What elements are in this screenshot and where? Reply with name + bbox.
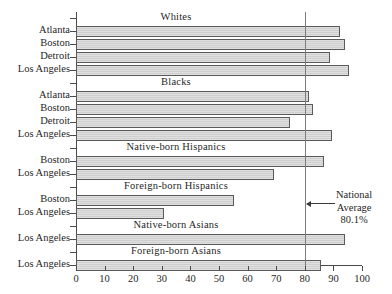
x-tick — [190, 266, 191, 271]
category-label: Detroit — [0, 115, 70, 126]
bar — [76, 104, 313, 115]
category-label: Boston — [0, 102, 70, 113]
y-tick — [70, 70, 76, 71]
x-tick-label: 60 — [242, 273, 253, 284]
x-tick-label: 0 — [73, 273, 78, 284]
bar — [76, 26, 340, 37]
x-tick-label: 50 — [214, 273, 225, 284]
bar — [76, 208, 164, 219]
x-tick-label: 80 — [300, 273, 311, 284]
group-title: Blacks — [0, 76, 392, 87]
x-tick-label: 90 — [328, 273, 339, 284]
category-label: Boston — [0, 193, 70, 204]
bar — [76, 117, 290, 128]
y-tick — [70, 174, 76, 175]
x-tick-label: 40 — [185, 273, 196, 284]
y-tick — [70, 213, 76, 214]
x-tick-label: 20 — [128, 273, 139, 284]
x-tick-label: 70 — [271, 273, 282, 284]
group-title: Foreign-born Hispanics — [0, 180, 392, 191]
bar — [76, 91, 309, 102]
group-title: Whites — [0, 11, 392, 22]
bar — [76, 52, 330, 63]
x-tick — [362, 266, 363, 271]
x-tick-label: 30 — [157, 273, 168, 284]
national-average-line-1: National — [336, 189, 372, 202]
x-tick — [248, 266, 249, 271]
category-label: Los Angeles — [0, 63, 70, 74]
bar — [76, 169, 274, 180]
bar — [76, 156, 324, 167]
group-title: Native-born Hispanics — [0, 141, 392, 152]
group-title: Foreign-born Asians — [0, 245, 392, 256]
y-tick — [70, 239, 76, 240]
national-average-arrow — [307, 203, 335, 204]
category-label: Boston — [0, 154, 70, 165]
national-average-line-2: Average — [336, 202, 372, 215]
y-tick — [70, 31, 76, 32]
category-label: Los Angeles — [0, 206, 70, 217]
category-label: Los Angeles — [0, 232, 70, 243]
national-average-line — [305, 12, 306, 266]
x-tick-label: 100 — [354, 273, 370, 284]
bar — [76, 130, 332, 141]
national-average-line-3: 80.1% — [336, 214, 372, 227]
group-title: Native-born Asians — [0, 219, 392, 230]
y-tick — [70, 57, 76, 58]
x-tick — [305, 266, 306, 271]
bar — [76, 65, 349, 76]
y-tick — [70, 135, 76, 136]
category-label: Los Angeles — [0, 258, 70, 269]
bar-chart: AtlantaBostonDetroitLos AngelesAtlantaBo… — [0, 0, 392, 294]
y-tick — [70, 161, 76, 162]
category-label: Atlanta — [0, 89, 70, 100]
y-tick — [70, 44, 76, 45]
category-label: Los Angeles — [0, 167, 70, 178]
x-tick — [76, 266, 77, 271]
category-label: Atlanta — [0, 24, 70, 35]
x-tick — [219, 266, 220, 271]
x-tick — [133, 266, 134, 271]
y-tick — [70, 200, 76, 201]
bar — [76, 260, 321, 271]
category-label: Boston — [0, 37, 70, 48]
national-average-label: NationalAverage80.1% — [336, 189, 372, 227]
y-tick — [70, 96, 76, 97]
y-tick — [70, 109, 76, 110]
y-tick — [70, 122, 76, 123]
category-label: Detroit — [0, 50, 70, 61]
bar — [76, 195, 234, 206]
category-label: Los Angeles — [0, 128, 70, 139]
x-tick — [276, 266, 277, 271]
x-tick — [162, 266, 163, 271]
x-tick — [333, 266, 334, 271]
x-tick-label: 10 — [99, 273, 110, 284]
x-tick — [105, 266, 106, 271]
